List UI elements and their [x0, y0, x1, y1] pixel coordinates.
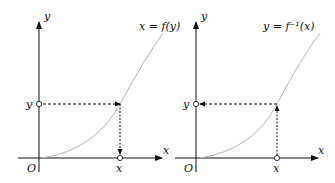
y-axis-label: y	[43, 10, 51, 23]
function-curve	[42, 33, 163, 158]
x-point-marker	[117, 155, 122, 160]
inverse-function-diagram: y x O y x x = f(y) y x O y x y = f⁻¹(x)	[0, 0, 335, 183]
origin-label: O	[27, 162, 36, 175]
y-point-marker	[36, 101, 41, 106]
curve-equation-label: y = f⁻¹(x)	[262, 20, 315, 33]
left-panel: y x O y x x = f(y)	[18, 10, 180, 175]
inverse-function-curve	[200, 33, 320, 158]
right-panel: y x O y x y = f⁻¹(x)	[175, 10, 325, 175]
y-point-marker	[193, 101, 198, 106]
x-point-label: x	[273, 162, 280, 175]
x-point-label: x	[116, 162, 123, 175]
y-point-label: y	[25, 98, 33, 111]
origin-label: O	[184, 162, 193, 175]
x-axis-label: x	[163, 144, 170, 157]
y-axis-label: y	[200, 10, 208, 23]
x-axis-label: x	[318, 144, 325, 157]
curve-equation-label: x = f(y)	[139, 20, 180, 33]
x-point-marker	[274, 155, 279, 160]
y-point-label: y	[182, 98, 190, 111]
